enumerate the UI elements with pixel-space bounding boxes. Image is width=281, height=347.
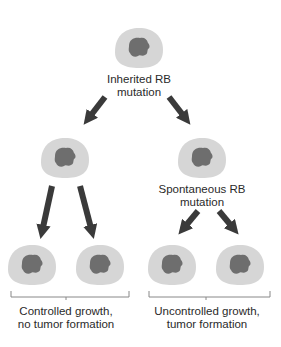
left-outcome-line1: Controlled growth,	[6, 305, 126, 318]
spontaneous-label: Spontaneous RB mutation	[152, 183, 252, 209]
left-outcome-line2: no tumor formation	[6, 318, 126, 331]
bottom-cell-4	[216, 245, 264, 285]
spontaneous-label-line1: Spontaneous RB	[152, 183, 252, 196]
top-label: Inherited RB mutation	[89, 73, 189, 99]
left-bracket	[11, 291, 129, 300]
diagram-canvas	[0, 0, 281, 347]
mid-right-cell	[178, 138, 226, 178]
bottom-cell-3	[148, 245, 196, 285]
right-outcome-line1: Uncontrolled growth,	[146, 305, 268, 318]
right-bracket	[149, 291, 270, 300]
top-label-line2: mutation	[89, 86, 189, 99]
spontaneous-label-line2: mutation	[152, 196, 252, 209]
right-outcome-line2: tumor formation	[146, 318, 268, 331]
arrow-right-to-b3	[183, 211, 198, 229]
bottom-cell-1	[8, 245, 56, 285]
arrow-left-to-b1	[42, 186, 52, 232]
top-label-line1: Inherited RB	[89, 73, 189, 86]
arrow-right-to-b4	[219, 211, 234, 229]
top-cell	[115, 28, 163, 68]
arrow-left-to-b2	[80, 186, 92, 232]
arrow-top-to-right	[169, 97, 186, 119]
arrow-top-to-left	[88, 97, 105, 119]
mid-left-cell	[41, 138, 89, 178]
bottom-cell-2	[76, 245, 124, 285]
left-outcome-label: Controlled growth, no tumor formation	[6, 305, 126, 331]
right-outcome-label: Uncontrolled growth, tumor formation	[146, 305, 268, 331]
